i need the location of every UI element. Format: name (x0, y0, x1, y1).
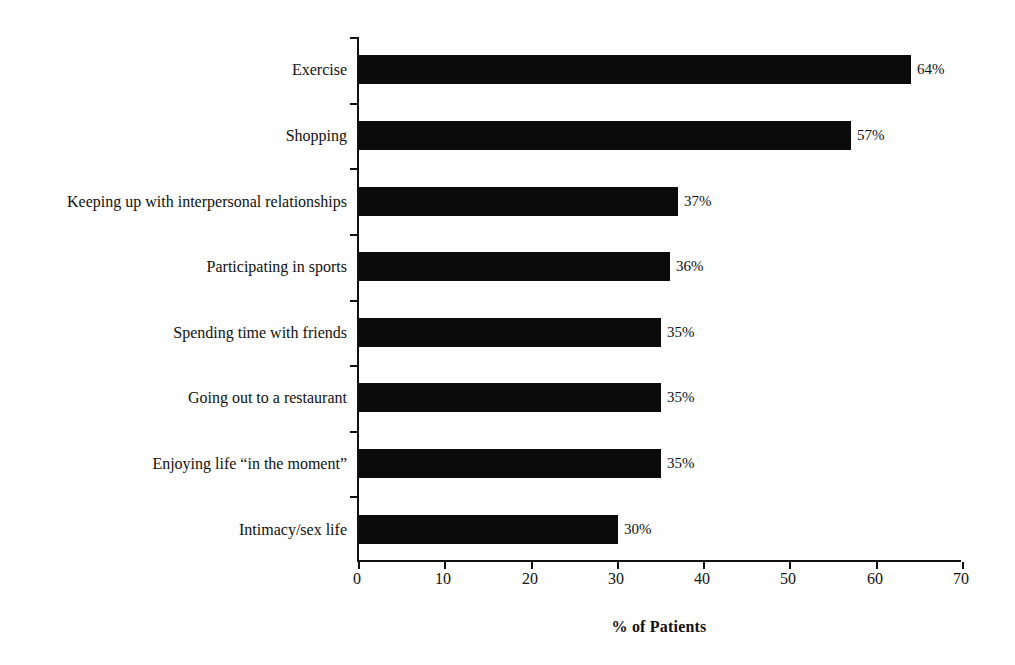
bar-chart-figure: 64%57%37%36%35%35%35%30% % of Patients E… (0, 0, 1015, 665)
bar-1 (359, 55, 911, 84)
bar-value-label: 64% (917, 55, 945, 84)
x-axis-tick-label: 60 (855, 570, 895, 588)
category-label: Exercise (7, 55, 347, 84)
bar-2 (359, 121, 851, 150)
bar-6 (359, 383, 661, 412)
bar-value-label: 37% (684, 187, 712, 216)
bar-value-label: 30% (624, 515, 652, 544)
category-label: Enjoying life “in the moment” (7, 449, 347, 478)
bar-7 (359, 449, 661, 478)
y-axis-tick (350, 300, 359, 302)
bar-value-label: 36% (676, 252, 704, 281)
x-axis-tick (444, 562, 446, 569)
x-axis-tick-label: 0 (337, 570, 377, 588)
y-axis-tick (350, 168, 359, 170)
y-axis-tick (350, 431, 359, 433)
category-label: Shopping (7, 121, 347, 150)
bar-8 (359, 515, 618, 544)
x-axis-tick (962, 562, 964, 569)
category-label: Participating in sports (7, 252, 347, 281)
bar-5 (359, 318, 661, 347)
bar-4 (359, 252, 670, 281)
plot-area: 64%57%37%36%35%35%35%30% (357, 37, 961, 562)
y-axis-tick (350, 496, 359, 498)
y-axis-tick (350, 103, 359, 105)
x-axis-tick-label: 40 (682, 570, 722, 588)
x-axis-title: % of Patients (357, 618, 961, 636)
bar-value-label: 35% (667, 383, 695, 412)
x-axis-tick (617, 562, 619, 569)
x-axis-tick-label: 30 (596, 570, 636, 588)
y-axis-tick (350, 234, 359, 236)
bar-value-label: 35% (667, 449, 695, 478)
x-axis-tick-label: 50 (768, 570, 808, 588)
x-axis-tick (531, 562, 533, 569)
category-label: Spending time with friends (7, 318, 347, 347)
y-axis-tick (350, 365, 359, 367)
y-axis-tick (350, 37, 359, 39)
category-label: Going out to a restaurant (7, 383, 347, 412)
bar-3 (359, 187, 678, 216)
bar-value-label: 57% (857, 121, 885, 150)
bar-value-label: 35% (667, 318, 695, 347)
x-axis-tick-label: 20 (510, 570, 550, 588)
category-label: Intimacy/sex life (7, 515, 347, 544)
category-label: Keeping up with interpersonal relationsh… (7, 187, 347, 216)
x-axis-tick-label: 10 (423, 570, 463, 588)
x-axis-tick (876, 562, 878, 569)
x-axis-tick (789, 562, 791, 569)
x-axis-tick (358, 562, 360, 569)
x-axis-tick-label: 70 (941, 570, 981, 588)
x-axis-tick (703, 562, 705, 569)
